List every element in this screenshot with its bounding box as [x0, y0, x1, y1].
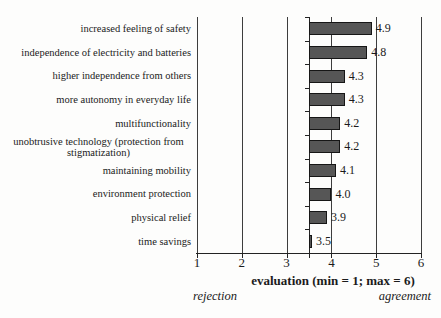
value-label: 4.3	[349, 93, 364, 106]
bar	[309, 140, 340, 153]
bar	[309, 164, 336, 177]
bar	[309, 211, 327, 224]
category-axis-tick	[305, 135, 309, 136]
value-label: 4.2	[344, 140, 359, 153]
category-axis-tick	[305, 41, 309, 42]
category-label-text: physical relief	[131, 212, 191, 223]
gridline	[421, 17, 422, 253]
category-label: maintaining mobility	[0, 159, 191, 183]
category-label: time savings	[0, 229, 191, 253]
category-label-text: increased feeling of safety	[81, 23, 192, 34]
category-label: increased feeling of safety	[0, 17, 191, 41]
axis-caption-agreement: agreement	[379, 289, 431, 304]
x-tick-label: 1	[194, 256, 201, 269]
x-axis-title: evaluation (min = 1; max = 6)	[251, 273, 415, 289]
value-label: 3.9	[331, 211, 346, 224]
x-tick-label: 6	[418, 256, 425, 269]
category-label: environment protection	[0, 182, 191, 206]
x-tick-label: 3	[283, 256, 290, 269]
x-axis-line	[196, 253, 422, 254]
category-label-text: independence of electricity and batterie…	[21, 47, 191, 58]
x-tick-label: 2	[239, 256, 246, 269]
axis-caption-rejection: rejection	[193, 289, 237, 304]
gridline	[242, 17, 243, 253]
category-label-text: unobtrusive technology (protection from …	[6, 136, 191, 158]
value-label: 3.5	[316, 235, 331, 248]
category-axis-tick	[305, 182, 309, 183]
category-axis-tick	[305, 229, 309, 230]
value-label: 4.8	[371, 46, 386, 59]
category-axis-tick	[305, 88, 309, 89]
bar	[309, 93, 345, 106]
bar	[309, 46, 367, 59]
gridline	[287, 17, 288, 253]
category-axis-tick	[305, 159, 309, 160]
category-label: physical relief	[0, 206, 191, 230]
category-label: more autonomy in everyday life	[0, 88, 191, 112]
value-label: 4.1	[340, 164, 355, 177]
value-label: 4.0	[335, 188, 350, 201]
category-label-text: more autonomy in everyday life	[56, 94, 191, 105]
category-label: multifunctionality	[0, 111, 191, 135]
category-axis-tick	[305, 111, 309, 112]
x-tick-label: 5	[373, 256, 380, 269]
bar	[309, 235, 312, 248]
category-label-text: time savings	[138, 236, 191, 247]
category-axis-tick	[305, 64, 309, 65]
gridline	[197, 17, 198, 253]
bar	[309, 188, 331, 201]
bar-chart-figure: increased feeling of safety4.9independen…	[0, 0, 441, 318]
category-label: independence of electricity and batterie…	[0, 41, 191, 65]
category-label: unobtrusive technology (protection from …	[0, 135, 191, 159]
category-axis-tick	[305, 17, 309, 18]
category-label-text: higher independence from others	[53, 70, 192, 81]
category-axis-tick	[305, 206, 309, 207]
category-label-text: maintaining mobility	[103, 165, 191, 176]
bar	[309, 70, 345, 83]
bar	[309, 117, 340, 130]
axis-captions: rejection agreement	[193, 289, 431, 304]
value-label: 4.2	[344, 117, 359, 130]
category-label-text: multifunctionality	[115, 118, 191, 129]
value-label: 4.3	[349, 70, 364, 83]
category-label-text: environment protection	[93, 188, 191, 199]
category-label: higher independence from others	[0, 64, 191, 88]
x-tick-label: 4	[328, 256, 335, 269]
value-label: 4.9	[376, 22, 391, 35]
bar	[309, 22, 372, 35]
